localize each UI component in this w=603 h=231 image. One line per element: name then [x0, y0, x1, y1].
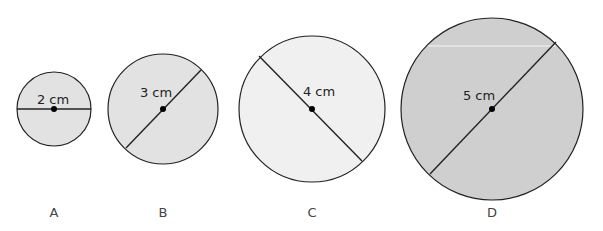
circle-D-group: 5 cm D: [401, 18, 583, 220]
circle-A-group: 2 cm A: [17, 72, 91, 220]
caption-A: A: [50, 205, 59, 220]
caption-D: D: [487, 205, 497, 220]
diameter-label-B: 3 cm: [140, 85, 172, 100]
center-dot-D: [489, 106, 495, 112]
diameter-label-A: 2 cm: [37, 92, 69, 107]
center-dot-C: [309, 106, 315, 112]
circles-diagram: 2 cm A 3 cm B 4 cm C 5 cm D: [0, 0, 603, 231]
diameter-label-D: 5 cm: [463, 88, 495, 103]
caption-B: B: [159, 205, 168, 220]
diameter-label-C: 4 cm: [303, 84, 335, 99]
circle-B-group: 3 cm B: [108, 54, 218, 220]
caption-C: C: [307, 205, 316, 220]
center-dot-B: [160, 106, 166, 112]
circle-C-group: 4 cm C: [239, 36, 385, 220]
